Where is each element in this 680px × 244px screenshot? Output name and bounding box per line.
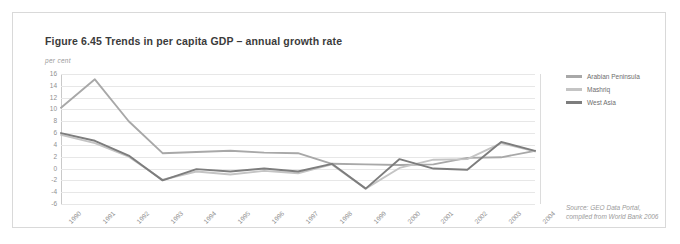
- legend-item[interactable]: Arabian Peninsula: [566, 70, 640, 83]
- figure-page: Figure 6.45 Trends in per capita GDP – a…: [0, 0, 680, 244]
- x-axis-tick-label: 1997: [305, 210, 320, 225]
- legend-item[interactable]: Mashriq: [566, 83, 640, 96]
- x-axis-tick-label: 1992: [136, 210, 151, 225]
- series-lines: [61, 74, 535, 204]
- y-axis-tick-label: 10: [50, 106, 57, 113]
- x-axis-tick-label: 2000: [406, 210, 421, 225]
- y-axis-tick-label: 6: [53, 130, 57, 137]
- y-axis-unit-label: per cent: [45, 57, 71, 64]
- x-axis-tick-label: 1994: [203, 210, 218, 225]
- y-axis-tick-label: 0: [53, 165, 57, 172]
- x-axis-tick-label: 2001: [440, 210, 455, 225]
- source-note: Source: GEO Data Portal, compiled from W…: [566, 203, 659, 221]
- page-title: Figure 6.45 Trends in per capita GDP – a…: [45, 35, 342, 47]
- legend-item[interactable]: West Asia: [566, 96, 640, 109]
- y-axis-tick-label: 14: [50, 83, 57, 90]
- legend-item-label: West Asia: [587, 99, 616, 106]
- y-axis-tick-label: 12: [50, 94, 57, 101]
- x-axis-tick-label: 1998: [339, 210, 354, 225]
- y-axis-tick-label: 2: [53, 153, 57, 160]
- y-axis-tick-label: -2: [51, 177, 57, 184]
- legend-swatch-icon: [566, 88, 582, 91]
- x-axis-tick-label: 1996: [271, 210, 286, 225]
- legend-swatch-icon: [566, 75, 582, 78]
- x-axis-tick-label: 2004: [542, 210, 557, 225]
- chart-plot-area: 1614121086420-2-4-6199019911992199319941…: [61, 74, 535, 204]
- legend-item-label: Arabian Peninsula: [587, 73, 640, 80]
- y-axis-tick-label: 8: [53, 118, 57, 125]
- x-axis-tick-label: 1999: [373, 210, 388, 225]
- x-axis-tick-label: 2003: [508, 210, 523, 225]
- x-axis-tick-label: 2002: [474, 210, 489, 225]
- y-axis-tick-label: 4: [53, 142, 57, 149]
- y-axis-tick-label: -6: [51, 201, 57, 208]
- legend-divider: [540, 74, 541, 204]
- gridline: [61, 204, 535, 205]
- series-line-arabian-peninsula: [61, 79, 535, 165]
- x-axis-tick-label: 1993: [169, 210, 184, 225]
- series-line-mashriq: [61, 135, 535, 189]
- x-axis-tick-label: 1990: [68, 210, 83, 225]
- chart-legend: Arabian PeninsulaMashriqWest Asia: [566, 70, 640, 109]
- series-line-west-asia: [61, 133, 535, 189]
- source-line-1: Source: GEO Data Portal,: [566, 203, 659, 212]
- source-line-2: compiled from World Bank 2006: [566, 212, 659, 221]
- legend-swatch-icon: [566, 101, 582, 104]
- y-axis-tick-label: 16: [50, 71, 57, 78]
- legend-item-label: Mashriq: [587, 86, 610, 93]
- x-axis-tick-label: 1991: [102, 210, 117, 225]
- x-axis-tick-label: 1995: [237, 210, 252, 225]
- y-axis-tick-label: -4: [51, 189, 57, 196]
- figure-panel: Figure 6.45 Trends in per capita GDP – a…: [12, 12, 666, 228]
